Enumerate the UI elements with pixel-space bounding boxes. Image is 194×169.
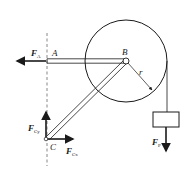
label-a: A <box>51 48 58 58</box>
svg-text:P: P <box>158 143 161 148</box>
svg-text:F: F <box>27 123 34 133</box>
hinge-c <box>44 137 48 141</box>
label-fa: F A <box>30 48 41 59</box>
hanging-block <box>153 112 179 127</box>
svg-text:F: F <box>65 146 72 156</box>
svg-text:Cx: Cx <box>72 152 78 157</box>
svg-text:F: F <box>30 48 37 58</box>
svg-text:Cy: Cy <box>34 129 40 134</box>
label-radius: r <box>139 67 143 77</box>
label-fcx: F Cx <box>65 146 78 157</box>
label-fp: F P <box>151 137 161 148</box>
label-b: B <box>122 47 128 57</box>
svg-text:F: F <box>151 137 158 147</box>
label-c: C <box>50 142 57 152</box>
pulley-frame-diagram: A B C r F A F Cy F Cx F P <box>0 0 194 169</box>
svg-text:A: A <box>37 54 41 59</box>
label-fcy: F Cy <box>27 123 40 134</box>
